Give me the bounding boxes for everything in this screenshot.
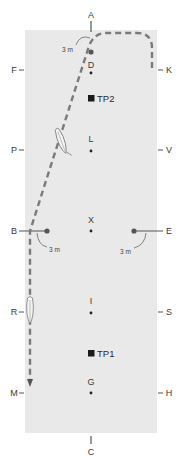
letter-a: A [88, 10, 94, 20]
cone-e [131, 228, 136, 233]
distance-label-b: 3 m [49, 246, 60, 253]
cone-near-a [88, 49, 93, 54]
dot-x [90, 230, 93, 233]
letter-c: C [88, 447, 95, 457]
distance-label-e: 3 m [120, 248, 131, 255]
letter-d: D [88, 60, 95, 70]
letter-h: H [166, 388, 173, 398]
dot-l [90, 150, 93, 153]
letter-p: P [11, 145, 17, 155]
tp1-label: TP1 [97, 348, 114, 359]
arena-diagram: A C F P B R M K V E S H [0, 0, 182, 460]
letter-r: R [11, 307, 18, 317]
letter-m: M [10, 388, 18, 398]
letter-f: F [11, 65, 17, 75]
letter-l: L [88, 134, 93, 144]
letter-e: E [166, 226, 172, 236]
letter-v: V [166, 145, 172, 155]
tp2-square-icon [88, 95, 95, 102]
dot-i [90, 312, 93, 315]
letter-x: X [88, 215, 94, 225]
tp2-label: TP2 [97, 93, 114, 104]
arena-svg: A C F P B R M K V E S H [0, 0, 182, 460]
letter-b: B [11, 226, 17, 236]
letter-s: S [166, 307, 172, 317]
letter-g: G [87, 377, 94, 387]
dot-g [90, 392, 93, 395]
cone-b [44, 228, 49, 233]
tp1-square-icon [88, 350, 95, 357]
letter-i: I [90, 296, 93, 306]
letter-k: K [166, 65, 172, 75]
dot-d [90, 72, 93, 75]
distance-label-a: 3 m [62, 46, 73, 53]
